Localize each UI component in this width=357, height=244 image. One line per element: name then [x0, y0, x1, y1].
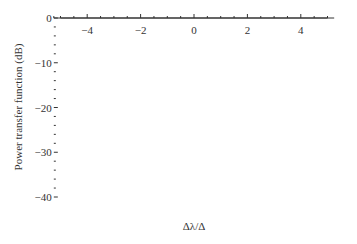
- y-axis-ticks: 0−10−20−30−40: [35, 12, 58, 203]
- x-tick-label: −4: [81, 24, 93, 36]
- x-tick-label: 4: [298, 24, 304, 36]
- x-axis-ticks: −4−2024: [61, 14, 328, 36]
- power-transfer-chart: −4−2024 0−10−20−30−40 Δλ/Δ Power transfe…: [0, 0, 357, 244]
- x-tick-label: −2: [135, 24, 147, 36]
- y-tick-label: −30: [35, 146, 53, 158]
- y-tick-label: 0: [46, 12, 52, 24]
- y-tick-label: −20: [35, 102, 53, 114]
- y-tick-label: −10: [35, 57, 53, 69]
- x-tick-label: 0: [191, 24, 197, 36]
- y-axis-label: Power transfer function (dB): [12, 43, 25, 170]
- x-axis-label: Δλ/Δ: [183, 220, 206, 232]
- y-tick-label: −40: [35, 191, 53, 203]
- x-tick-label: 2: [245, 24, 251, 36]
